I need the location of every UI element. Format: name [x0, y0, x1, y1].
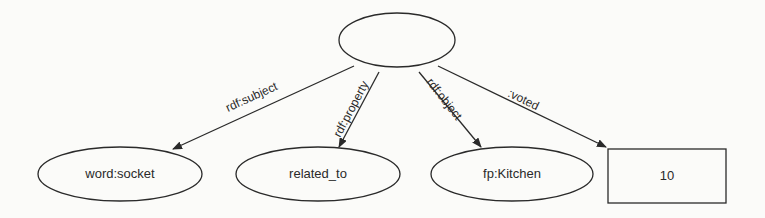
edge-label-rdf-subject: rdf:subject: [223, 79, 280, 115]
edge-label-voted: :voted: [506, 86, 542, 113]
edge-label-rdf-object: rdf:object: [424, 75, 466, 123]
statement-node: [339, 13, 455, 67]
edge-rdf-subject: rdf:subject: [173, 66, 354, 149]
edge-rdf-object: rdf:object: [419, 72, 481, 147]
node-label-fp-kitchen: fp:Kitchen: [483, 166, 541, 181]
edge-label-rdf-property: rdf:property: [330, 79, 371, 140]
edge-rdf-property: rdf:property: [330, 72, 379, 147]
node-label-word-socket: word:socket: [84, 166, 155, 181]
node-value-10: 10: [608, 149, 726, 203]
node-label-value-10: 10: [660, 168, 674, 183]
diagram-canvas: rdf:subject rdf:property rdf:object :vot…: [0, 0, 765, 218]
node-word-socket: word:socket: [38, 147, 202, 201]
node-related-to: related_to: [236, 147, 400, 201]
node-fp-kitchen: fp:Kitchen: [431, 147, 593, 201]
edge-voted: :voted: [438, 66, 606, 147]
node-label-related-to: related_to: [289, 166, 347, 181]
rdf-reification-diagram: rdf:subject rdf:property rdf:object :vot…: [0, 0, 765, 218]
